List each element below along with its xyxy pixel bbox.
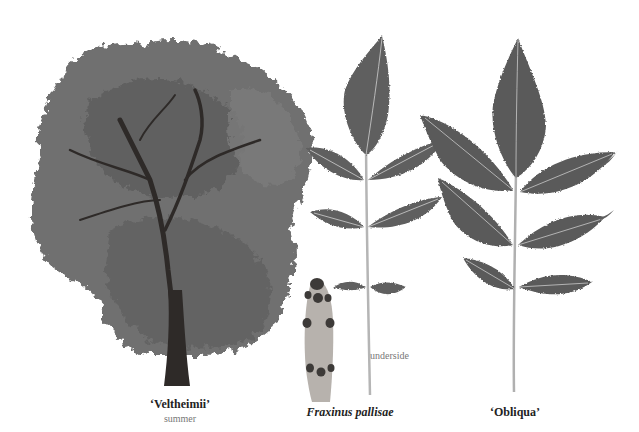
plate-illustration: [0, 0, 639, 432]
pallisae-leaflet: [333, 282, 366, 290]
bud: [325, 294, 332, 302]
annotation-underside: underside: [370, 350, 430, 361]
bud: [313, 293, 323, 303]
label-fraxinus-pallisae: Fraxinus pallisae: [285, 405, 415, 420]
obliqua-rachis: [514, 170, 516, 392]
bud: [306, 364, 314, 373]
bud: [326, 318, 335, 328]
pallisae-terminal-leaflet: [344, 36, 390, 155]
bud: [310, 278, 324, 290]
pallisae-leaflet: [370, 282, 406, 294]
label-obliqua: ‘Obliqua’: [470, 405, 560, 420]
tree-veltheimii: [31, 40, 313, 386]
botanical-plate: ‘Veltheimii’ summer Fraxinus pallisae un…: [0, 0, 639, 432]
label-veltheimii: ‘Veltheimii’: [120, 397, 240, 412]
bud: [328, 364, 335, 372]
leaf-obliqua: [420, 38, 615, 392]
obliqua-terminal-leaflet: [492, 38, 546, 178]
bud: [303, 318, 312, 328]
bud: [305, 291, 312, 299]
bud: [317, 368, 326, 377]
pallisae-leaflet: [310, 209, 364, 228]
caption-summer: summer: [120, 413, 240, 424]
twig-pallisae: [303, 278, 335, 402]
